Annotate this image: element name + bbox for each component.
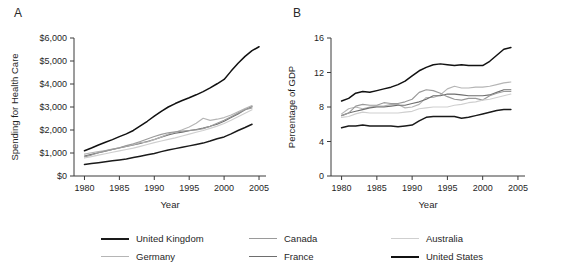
series-line <box>84 124 252 164</box>
legend-item: Australia <box>391 231 541 246</box>
x-tick-label: 2000 <box>214 183 234 193</box>
y-tick-label: 16 <box>314 33 324 43</box>
y-tick-label: $0 <box>57 171 67 181</box>
y-tick-label: 12 <box>314 68 324 78</box>
series-line <box>84 47 259 151</box>
x-tick-label: 1995 <box>179 183 199 193</box>
legend-item: Germany <box>101 249 249 264</box>
legend-line-swatch <box>391 256 419 258</box>
legend-line-swatch <box>391 238 419 239</box>
panel-a-plot: $0$1,000$2,000$3,000$4,000$5,000$6,00019… <box>0 0 281 226</box>
legend-item: Canada <box>249 231 391 246</box>
series-line <box>84 107 252 156</box>
legend-line-swatch <box>101 256 129 257</box>
legend-item-label: United States <box>426 252 483 262</box>
legend-item: France <box>249 249 391 264</box>
legend-line-swatch <box>101 238 129 240</box>
x-axis-title: Year <box>418 199 437 210</box>
legend-item-label: Australia <box>426 234 463 244</box>
y-tick-label: 8 <box>319 102 324 112</box>
y-axis-title: Spending for Health Care <box>9 53 20 160</box>
x-tick-label: 1980 <box>74 183 94 193</box>
y-tick-label: $4,000 <box>39 79 67 89</box>
series-line <box>342 90 511 116</box>
figure-container: A $0$1,000$2,000$3,000$4,000$5,000$6,000… <box>0 0 563 266</box>
figure-legend: United KingdomCanadaAustraliaGermanyFran… <box>0 228 563 266</box>
x-tick-label: 1985 <box>109 183 129 193</box>
legend-line-swatch <box>249 238 277 239</box>
legend-grid: United KingdomCanadaAustraliaGermanyFran… <box>101 231 563 264</box>
series-line <box>342 90 511 116</box>
x-tick-label: 2005 <box>249 183 269 193</box>
panels-row: A $0$1,000$2,000$3,000$4,000$5,000$6,000… <box>0 0 563 226</box>
y-tick-label: $6,000 <box>39 33 67 43</box>
y-tick-label: 0 <box>319 171 324 181</box>
legend-item-label: Germany <box>136 252 175 262</box>
legend-item: United Kingdom <box>101 231 249 246</box>
legend-item: United States <box>391 249 541 264</box>
panel-b-plot: 0481216198019851990199520002005YearPerce… <box>281 0 562 226</box>
y-tick-label: 4 <box>319 137 324 147</box>
series-line <box>84 106 252 155</box>
legend-item-label: United Kingdom <box>136 234 204 244</box>
y-axis-title: Percentage of GDP <box>286 66 297 148</box>
series-line <box>342 47 511 100</box>
x-tick-label: 2000 <box>473 183 493 193</box>
x-axis-title: Year <box>160 199 179 210</box>
x-tick-label: 1990 <box>402 183 422 193</box>
y-tick-label: $5,000 <box>39 56 67 66</box>
panel-b: B 0481216198019851990199520002005YearPer… <box>281 0 562 226</box>
x-tick-label: 1980 <box>332 183 352 193</box>
legend-line-swatch <box>249 256 277 257</box>
x-tick-label: 1995 <box>437 183 457 193</box>
x-tick-label: 2005 <box>508 183 528 193</box>
y-tick-label: $2,000 <box>39 125 67 135</box>
legend-item-label: France <box>284 252 314 262</box>
x-tick-label: 1985 <box>367 183 387 193</box>
x-tick-label: 1990 <box>144 183 164 193</box>
legend-item-label: Canada <box>284 234 317 244</box>
y-tick-label: $1,000 <box>39 148 67 158</box>
panel-a: A $0$1,000$2,000$3,000$4,000$5,000$6,000… <box>0 0 281 226</box>
y-tick-label: $3,000 <box>39 102 67 112</box>
